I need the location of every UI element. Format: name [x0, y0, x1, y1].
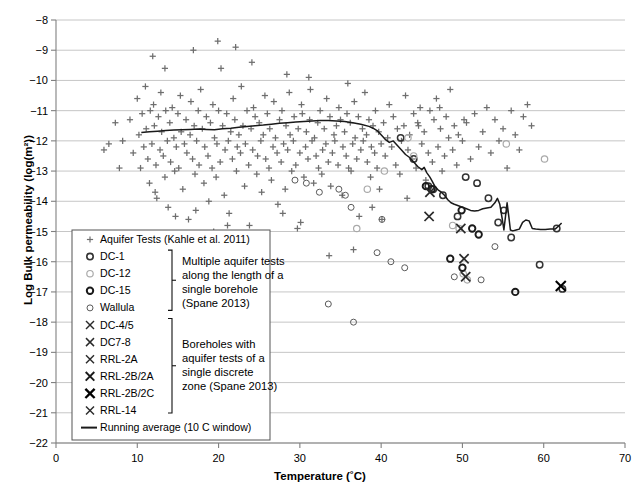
svg-text:−8: −8: [35, 14, 48, 26]
legend-item-running-average-10-c-window-[interactable]: Running average (10 C window): [81, 421, 251, 433]
y-axis-ticks: −8−9−10−11−12−13−14−15−16−17−18−19−20−21…: [29, 14, 56, 449]
svg-text:0: 0: [53, 452, 59, 464]
svg-text:50: 50: [456, 452, 468, 464]
legend-note-1-line: (Spane 2013): [182, 297, 250, 309]
series-wallula: [292, 177, 498, 325]
svg-text:DC-15: DC-15: [100, 284, 131, 296]
svg-text:−13: −13: [29, 165, 48, 177]
legend-note-2-line: single discrete: [182, 366, 254, 378]
legend-note-2-line: Boreholes with: [182, 338, 255, 350]
legend-note-2-line: aquifer tests of a: [182, 352, 265, 364]
running-average-line: [141, 121, 561, 231]
svg-text:RRL-2B/2C: RRL-2B/2C: [100, 387, 155, 399]
svg-text:−22: −22: [29, 437, 48, 449]
svg-text:RRL-2B/2A: RRL-2B/2A: [100, 370, 155, 382]
svg-text:20: 20: [212, 452, 224, 464]
legend-item-aquifer-tests-kahle-et-al-2011-[interactable]: Aquifer Tests (Kahle et al. 2011): [87, 233, 250, 245]
svg-text:RRL-14: RRL-14: [100, 404, 137, 416]
svg-text:10: 10: [131, 452, 143, 464]
svg-text:−19: −19: [29, 346, 48, 358]
svg-text:−15: −15: [29, 226, 48, 238]
legend-note-2-line: zone (Spane 2013): [182, 380, 277, 392]
svg-text:RRL-2A: RRL-2A: [100, 353, 139, 365]
svg-text:DC-4/5: DC-4/5: [100, 319, 134, 331]
svg-text:−10: −10: [29, 74, 48, 86]
x-axis-ticks: 010203040506070: [53, 443, 631, 464]
svg-text:−20: −20: [29, 377, 48, 389]
svg-text:−11: −11: [30, 105, 48, 117]
svg-text:−17: −17: [29, 286, 48, 298]
svg-text:−12: −12: [29, 135, 48, 147]
legend-note-1-line: Multiple aquifer tests: [182, 255, 285, 267]
svg-text:DC-1: DC-1: [100, 250, 125, 262]
svg-text:−14: −14: [29, 195, 48, 207]
legend-note-1-line: along the length of a: [182, 269, 284, 281]
svg-text:−21: −21: [29, 407, 48, 419]
figure-root: Log Bulk permeability (log(m²)) Temperat…: [0, 0, 640, 496]
scatter-plot: −8−9−10−11−12−13−14−15−16−17−18−19−20−21…: [0, 0, 640, 496]
svg-text:Wallula: Wallula: [100, 301, 134, 313]
svg-text:Aquifer Tests (Kahle et al. 20: Aquifer Tests (Kahle et al. 2011): [100, 233, 250, 245]
svg-text:−18: −18: [29, 316, 48, 328]
svg-text:−16: −16: [29, 256, 48, 268]
svg-text:40: 40: [375, 452, 387, 464]
legend[interactable]: Aquifer Tests (Kahle et al. 2011)DC-1DC-…: [72, 230, 285, 440]
svg-text:Running average (10 C window): Running average (10 C window): [100, 421, 251, 433]
svg-text:30: 30: [294, 452, 306, 464]
svg-text:−9: −9: [35, 44, 48, 56]
svg-text:70: 70: [619, 452, 631, 464]
svg-text:DC-12: DC-12: [100, 267, 131, 279]
legend-note-1-line: single borehole: [182, 283, 258, 295]
series-dc-12: [354, 135, 548, 283]
svg-text:DC7-8: DC7-8: [100, 336, 131, 348]
svg-text:60: 60: [538, 452, 550, 464]
series-dc-1: [397, 135, 565, 292]
series-dc7-8: [425, 212, 434, 221]
